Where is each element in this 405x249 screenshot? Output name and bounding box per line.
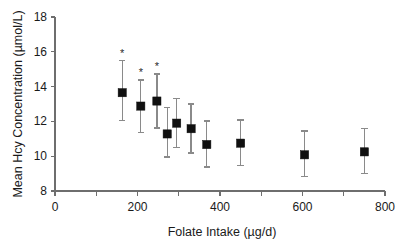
y-tick-label: 8 bbox=[40, 184, 47, 198]
significance-asterisk: * bbox=[139, 66, 144, 78]
data-point-marker bbox=[153, 97, 161, 105]
data-point-marker bbox=[300, 151, 308, 159]
y-tick-label: 18 bbox=[34, 10, 48, 24]
x-tick-label: 0 bbox=[52, 200, 59, 214]
x-tick-label: 800 bbox=[375, 200, 395, 214]
data-point-marker bbox=[187, 125, 195, 133]
plot-area: 810121416180200400600800*** bbox=[0, 0, 405, 249]
data-point-marker bbox=[203, 140, 211, 148]
significance-asterisk: * bbox=[155, 60, 160, 72]
y-tick-label: 16 bbox=[34, 45, 48, 59]
x-tick-label: 600 bbox=[292, 200, 312, 214]
y-tick-label: 10 bbox=[34, 149, 48, 163]
data-point-marker bbox=[360, 148, 368, 156]
x-tick-label: 200 bbox=[127, 200, 147, 214]
data-point-marker bbox=[237, 139, 245, 147]
data-point-marker bbox=[118, 89, 126, 97]
y-tick-label: 12 bbox=[34, 114, 48, 128]
x-tick-label: 400 bbox=[210, 200, 230, 214]
y-tick-label: 14 bbox=[34, 80, 48, 94]
folate-hcy-scatter-figure: 810121416180200400600800*** Mean Hcy Con… bbox=[0, 0, 405, 249]
data-point-marker bbox=[137, 102, 145, 110]
significance-asterisk: * bbox=[120, 47, 125, 59]
data-point-marker bbox=[163, 130, 171, 138]
data-point-marker bbox=[173, 119, 181, 127]
